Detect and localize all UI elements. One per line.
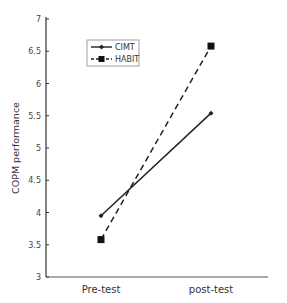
chart: 33.544.555.566.57 COPM performance Pre-t… <box>0 0 287 303</box>
y-axis-title: COPM performance <box>10 102 21 194</box>
y-tick-label: 5 <box>36 144 41 153</box>
legend-cimt-label: CIMT <box>115 43 135 52</box>
y-tick-label: 5.5 <box>28 112 41 121</box>
y-tick-label: 6.5 <box>28 47 41 56</box>
y-tick-label: 4 <box>36 209 41 218</box>
legend: CIMT HABIT <box>87 40 139 66</box>
y-tick-label: 3 <box>36 273 41 282</box>
series-line-habit <box>101 46 211 240</box>
series-line-cimt <box>101 113 211 216</box>
y-tick-label: 7 <box>36 15 41 24</box>
data-point-habit-post-test <box>208 43 215 50</box>
legend-habit-square-marker-icon <box>99 56 105 62</box>
y-tick-label: 6 <box>36 80 41 89</box>
x-tick-label-post-test: post-test <box>189 284 233 295</box>
data-point-habit-pre-test <box>98 236 105 243</box>
series-layer <box>98 43 215 244</box>
y-tick-label: 4.5 <box>28 176 41 185</box>
y-tick-label: 3.5 <box>28 241 41 250</box>
x-tick-label-pre-test: Pre-test <box>82 284 121 295</box>
legend-habit-label: HABIT <box>115 55 139 64</box>
